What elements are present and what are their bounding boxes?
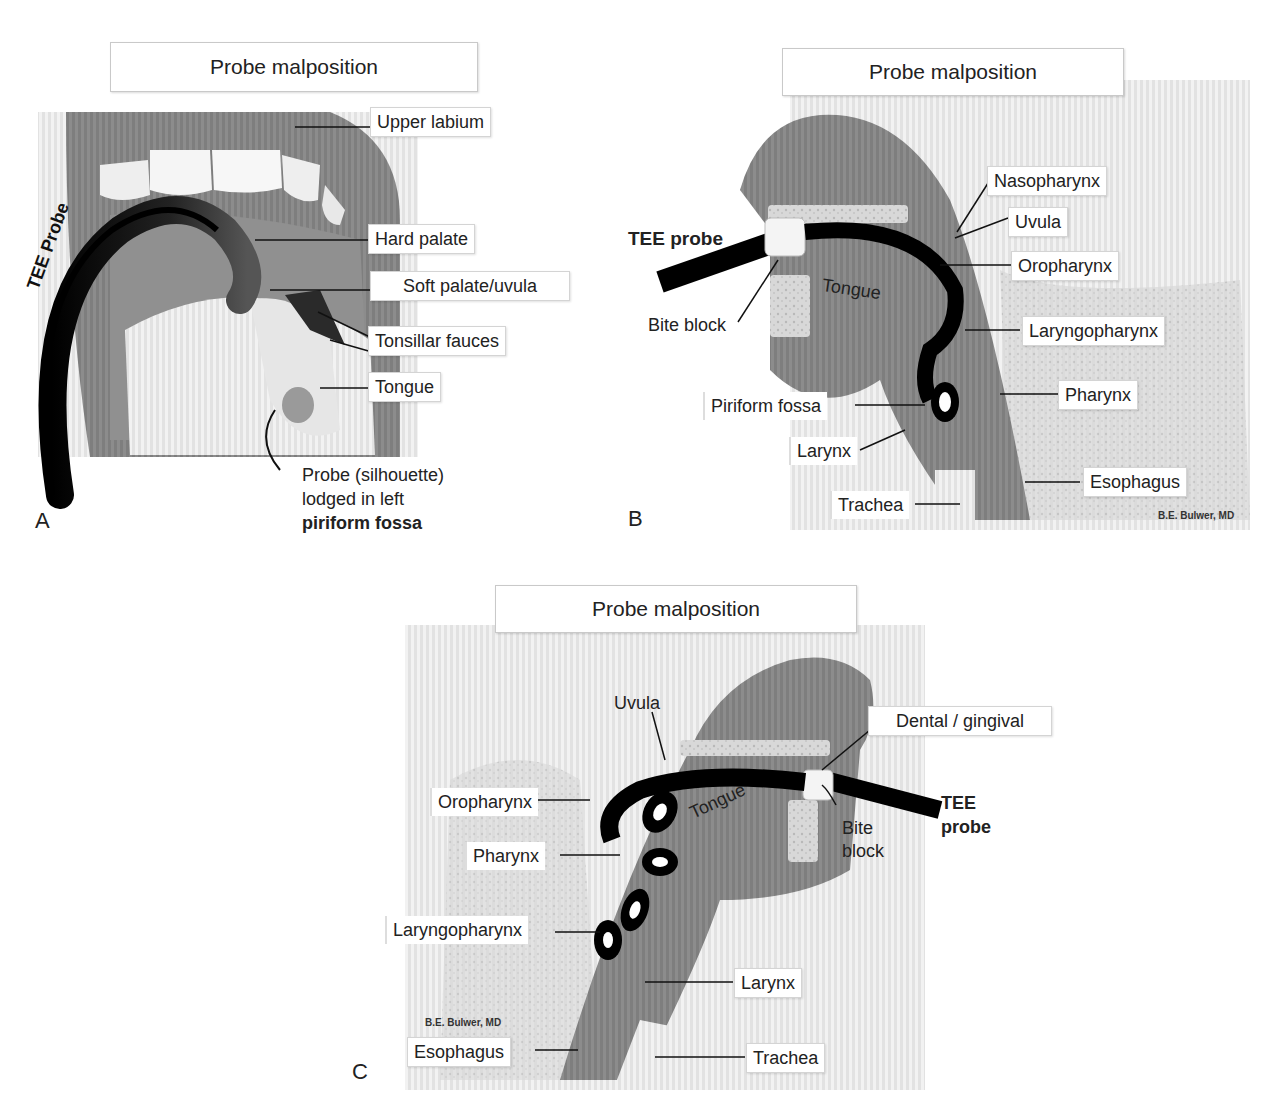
label-trachea-b: Trachea	[830, 491, 909, 519]
panel-c-title: Probe malposition	[495, 585, 857, 633]
label-upper-labium: Upper labium	[370, 107, 491, 137]
tee-probe-label-b: TEE probe	[628, 228, 723, 250]
label-hard-palate: Hard palate	[368, 224, 475, 254]
caption-line-2: lodged in left	[302, 488, 404, 510]
label-uvula-b: Uvula	[1008, 207, 1068, 237]
label-larynx-c: Larynx	[734, 968, 802, 998]
panel-letter-c: C	[352, 1059, 368, 1085]
label-esophagus-c: Esophagus	[407, 1037, 511, 1067]
label-dental-gingival: Dental / gingival	[868, 706, 1052, 736]
bite-block-label-b: Bite block	[648, 314, 726, 336]
panel-letter-a: A	[35, 508, 50, 534]
panel-a-title: Probe malposition	[110, 42, 478, 92]
credit-b: B.E. Bulwer, MD	[1158, 510, 1234, 521]
label-larynx-b: Larynx	[789, 437, 857, 465]
credit-c: B.E. Bulwer, MD	[425, 1017, 501, 1028]
label-tongue: Tongue	[368, 372, 441, 402]
tee-probe-label-c1: TEE	[941, 792, 976, 814]
label-laryngopharynx-b: Laryngopharynx	[1022, 316, 1165, 346]
label-laryngopharynx-c: Laryngopharynx	[385, 916, 528, 944]
label-trachea-c: Trachea	[746, 1043, 825, 1073]
label-pharynx-c: Pharynx	[465, 842, 545, 870]
label-soft-palate-uvula: Soft palate/uvula	[370, 271, 570, 301]
label-pharynx-b: Pharynx	[1058, 380, 1138, 410]
panel-a-art	[38, 112, 418, 495]
caption-line-1: Probe (silhouette)	[302, 464, 444, 486]
label-oropharynx-c: Oropharynx	[430, 788, 538, 816]
label-nasopharynx: Nasopharynx	[987, 166, 1107, 196]
panel-b-title: Probe malposition	[782, 48, 1124, 96]
tee-probe-label-c2: probe	[941, 816, 991, 838]
bite-label-c2: block	[842, 840, 884, 862]
bite-label-c1: Bite	[842, 817, 873, 839]
panel-b-art	[660, 80, 1250, 530]
uvula-label-c: Uvula	[614, 692, 660, 714]
label-esophagus-b: Esophagus	[1083, 467, 1187, 497]
caption-line-3: piriform fossa	[302, 512, 422, 534]
label-piriform-fossa: Piriform fossa	[703, 392, 827, 420]
panel-letter-b: B	[628, 506, 643, 532]
label-oropharynx-b: Oropharynx	[1011, 251, 1119, 281]
label-tonsillar-fauces: Tonsillar fauces	[368, 326, 506, 356]
